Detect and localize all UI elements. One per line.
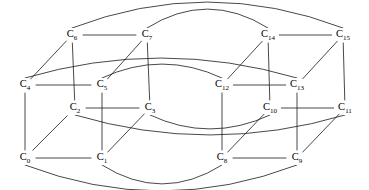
edge-C6-C2 <box>72 43 74 100</box>
node-c2[interactable]: C2 <box>67 101 84 115</box>
edge-C14-C10 <box>268 43 270 100</box>
node-c15[interactable]: C15 <box>332 28 354 42</box>
node-layer: C0C1C2C3C4C5C6C7C8C9C10C11C12C13C14C15 <box>17 28 357 165</box>
edge-C7-C3 <box>147 43 149 100</box>
arc-edge-C1-C8 <box>102 165 222 184</box>
arc-edge-C4-C13 <box>25 58 297 78</box>
edge-line-layer <box>25 35 345 158</box>
edge-C15-C13 <box>302 41 337 79</box>
edge-C6-C4 <box>30 41 66 79</box>
edge-C10-C8 <box>228 114 265 152</box>
arc-edge-C0-C9 <box>25 165 297 190</box>
graph-svg: C0C1C2C3C4C5C6C7C8C9C10C11C12C13C14C15 <box>0 0 369 190</box>
arc-edge-C5-C12 <box>102 64 222 78</box>
edge-C11-C9 <box>303 114 340 152</box>
node-c14[interactable]: C14 <box>257 28 279 42</box>
node-c3[interactable]: C3 <box>142 101 159 115</box>
edge-C3-C1 <box>108 114 145 152</box>
node-c8[interactable]: C8 <box>214 151 231 165</box>
diagram-canvas: C0C1C2C3C4C5C6C7C8C9C10C11C12C13C14C15 <box>0 0 369 190</box>
node-c13[interactable]: C13 <box>286 78 308 92</box>
node-c6[interactable]: C6 <box>64 28 81 42</box>
node-c7[interactable]: C7 <box>139 28 156 42</box>
edge-C14-C12 <box>227 41 262 79</box>
arc-edge-C7-C14 <box>147 9 268 28</box>
node-c9[interactable]: C9 <box>289 151 306 165</box>
node-c1[interactable]: C1 <box>94 151 111 165</box>
node-c12[interactable]: C12 <box>211 78 233 92</box>
node-c4[interactable]: C4 <box>17 78 34 92</box>
arc-edge-C6-C15 <box>72 2 343 28</box>
edge-C2-C0 <box>33 116 67 150</box>
node-c10[interactable]: C10 <box>259 101 281 115</box>
arc-edge-C2-C11 <box>75 115 345 135</box>
node-c5[interactable]: C5 <box>94 78 111 92</box>
node-c0[interactable]: C0 <box>17 151 34 165</box>
edge-C15-C11 <box>343 43 345 100</box>
edge-C7-C5 <box>107 41 141 79</box>
node-c11[interactable]: C11 <box>334 101 356 115</box>
